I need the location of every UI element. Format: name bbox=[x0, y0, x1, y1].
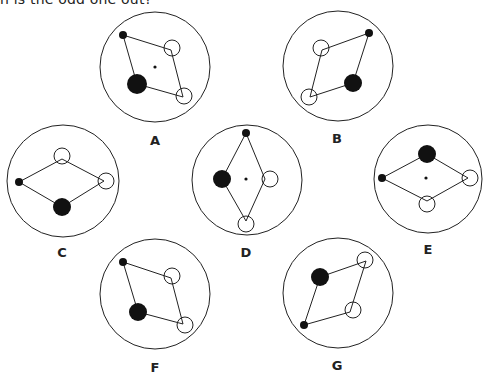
large-black-dot bbox=[344, 74, 362, 92]
small-black-dot bbox=[242, 129, 250, 137]
large-black-dot bbox=[127, 74, 147, 94]
outer-circle bbox=[7, 125, 119, 237]
option-g[interactable]: G bbox=[283, 238, 393, 373]
outer-circle bbox=[283, 11, 393, 121]
outer-circle bbox=[283, 238, 393, 348]
outer-circle bbox=[100, 239, 210, 349]
option-d[interactable]: D bbox=[192, 125, 302, 260]
option-label: G bbox=[332, 358, 343, 373]
option-label: B bbox=[332, 131, 342, 146]
option-label: D bbox=[241, 245, 252, 260]
open-circle bbox=[262, 171, 278, 187]
large-black-dot bbox=[53, 198, 71, 216]
option-label: C bbox=[57, 245, 67, 260]
option-label: E bbox=[424, 242, 433, 257]
large-black-dot bbox=[213, 170, 231, 188]
open-circle bbox=[301, 89, 317, 105]
option-f[interactable]: F bbox=[100, 239, 210, 375]
small-black-dot bbox=[365, 29, 373, 37]
small-black-dot bbox=[119, 258, 127, 266]
small-black-dot bbox=[378, 174, 386, 182]
option-label: A bbox=[150, 133, 160, 148]
option-e[interactable]: E bbox=[374, 125, 482, 257]
open-circle bbox=[54, 148, 70, 164]
open-circle bbox=[177, 317, 193, 333]
open-circle bbox=[98, 173, 114, 189]
small-black-dot bbox=[119, 31, 127, 39]
small-black-dot bbox=[15, 178, 23, 186]
center-dot bbox=[424, 176, 427, 179]
large-black-dot bbox=[129, 303, 147, 321]
large-black-dot bbox=[418, 145, 436, 163]
option-a[interactable]: A bbox=[100, 12, 210, 148]
option-b[interactable]: B bbox=[283, 11, 393, 146]
large-black-dot bbox=[311, 268, 329, 286]
center-dot bbox=[153, 65, 156, 68]
open-circle bbox=[419, 196, 435, 212]
small-black-dot bbox=[300, 321, 308, 329]
open-circle bbox=[238, 216, 254, 232]
open-circle bbox=[462, 170, 478, 186]
puzzle-figure: ABCDEFG bbox=[0, 0, 488, 381]
open-circle bbox=[345, 302, 361, 318]
option-label: F bbox=[151, 360, 160, 375]
rhombus-shape bbox=[304, 261, 366, 325]
center-dot bbox=[244, 177, 247, 180]
option-c[interactable]: C bbox=[7, 125, 119, 260]
